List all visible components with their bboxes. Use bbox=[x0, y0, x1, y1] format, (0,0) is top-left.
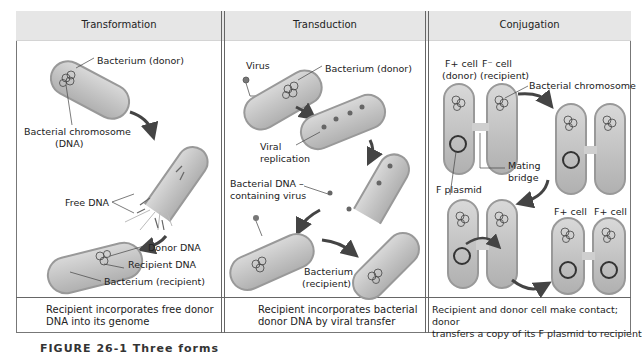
label-fminus-cell: F⁻ cell bbox=[482, 58, 512, 69]
conjugating-pair-2 bbox=[556, 104, 625, 194]
label-bacterial-chromosome: Bacterial chromosome bbox=[24, 126, 131, 137]
conjugating-pair-4 bbox=[552, 218, 625, 294]
description-transformation: Recipient incorporates free donor DNA in… bbox=[46, 304, 214, 328]
conjugating-pair-3 bbox=[448, 200, 517, 288]
label-bacterium-donor: Bacterium (donor) bbox=[325, 63, 412, 74]
label-recipient: (recipient) bbox=[480, 70, 529, 81]
label-fplus-cell: F+ cell bbox=[445, 58, 478, 69]
label-fplus-cell-a: F+ cell bbox=[554, 206, 587, 217]
label-virus: Virus bbox=[246, 60, 270, 71]
label-bacterium: Bacterium bbox=[304, 266, 353, 277]
label-dna: (DNA) bbox=[55, 138, 83, 149]
description-line: donor DNA by viral transfer bbox=[258, 316, 418, 328]
label-f-plasmid: F plasmid bbox=[436, 184, 482, 195]
lysed-bacterium bbox=[145, 141, 214, 221]
label-donor: (donor) bbox=[442, 70, 477, 81]
label-bacterium-recipient: Bacterium (recipient) bbox=[104, 276, 205, 287]
label-recipient-dna: Recipient DNA bbox=[128, 259, 196, 270]
label-containing-virus: containing virus bbox=[230, 190, 306, 201]
description-line: DNA into its genome bbox=[46, 316, 214, 328]
label-free-dna: Free DNA bbox=[65, 197, 109, 208]
label-replication: replication bbox=[260, 153, 310, 164]
label-bacterium-donor: Bacterium (donor) bbox=[97, 55, 184, 66]
label-donor-dna: Donor DNA bbox=[148, 242, 201, 253]
label-viral: Viral bbox=[260, 141, 281, 152]
label-mating: Mating bbox=[508, 160, 540, 171]
label-bacterial-chromosome: Bacterial chromosome bbox=[529, 80, 636, 91]
description-line: Recipient incorporates bacterial bbox=[258, 304, 418, 316]
description-transduction: Recipient incorporates bacterial donor D… bbox=[258, 304, 418, 328]
recipient-bacterium-2 bbox=[346, 226, 425, 305]
lysed-bacterium-2 bbox=[354, 149, 414, 224]
figure-caption: FIGURE 26-1 Three forms bbox=[40, 342, 219, 355]
description-conjugation: Recipient and donor cell make contact; d… bbox=[432, 304, 642, 340]
label-fplus-cell-b: F+ cell bbox=[594, 206, 627, 217]
label-bacterial-dna: Bacterial DNA – bbox=[230, 178, 304, 189]
description-line: Recipient and donor cell make contact; d… bbox=[432, 304, 642, 328]
label-recipient: (recipient) bbox=[302, 278, 351, 289]
label-bridge: bridge bbox=[508, 172, 538, 183]
description-line: transfers a copy of its F plasmid to rec… bbox=[432, 328, 642, 340]
description-line: Recipient incorporates free donor bbox=[46, 304, 214, 316]
